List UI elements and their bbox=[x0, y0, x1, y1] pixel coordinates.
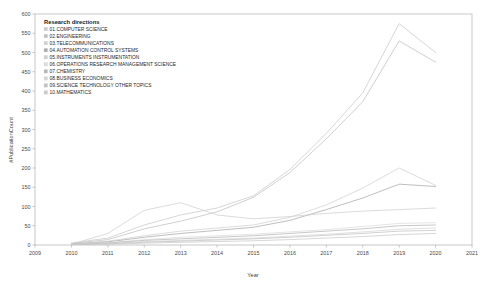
y-tick-label: 350 bbox=[22, 107, 31, 113]
x-tick-label: 2018 bbox=[357, 250, 369, 256]
legend-swatch-icon bbox=[44, 48, 48, 52]
legend-swatch-icon bbox=[44, 34, 48, 38]
x-tick-label: 2019 bbox=[393, 250, 405, 256]
legend-swatch-icon bbox=[44, 70, 48, 74]
legend-item-label: 08.BUSINESS ECONOMICS bbox=[50, 76, 114, 81]
x-tick-label: 2020 bbox=[430, 250, 442, 256]
legend-item-8[interactable]: 08.BUSINESS ECONOMICS bbox=[44, 76, 113, 81]
x-tick-label: 2012 bbox=[138, 250, 150, 256]
y-tick-label: 600 bbox=[22, 11, 31, 17]
legend-swatch-icon bbox=[44, 84, 48, 88]
legend-title: Research directions bbox=[44, 19, 99, 25]
y-tick-label: 450 bbox=[22, 69, 31, 75]
y-tick-label: 50 bbox=[25, 223, 31, 229]
y-tick-label: 400 bbox=[22, 88, 31, 94]
y-tick-label: 500 bbox=[22, 50, 31, 56]
publication-count-line-chart: 050100150200250300350400450500550600 200… bbox=[0, 0, 493, 285]
y-tick-label: 550 bbox=[22, 30, 31, 36]
x-tick-label: 2021 bbox=[466, 250, 478, 256]
legend-swatch-icon bbox=[44, 91, 48, 95]
legend-item-label: 04.AUTOMATION CONTROL SYSTEMS bbox=[50, 48, 140, 53]
legend-swatch-icon bbox=[44, 41, 48, 45]
legend-item-label: 06.OPERATIONS RESEARCH MANAGEMENT SCIENC… bbox=[50, 62, 177, 67]
chart-canvas: 050100150200250300350400450500550600 200… bbox=[0, 0, 493, 285]
legend-item-5[interactable]: 05.INSTRUMENTS INSTRUMENTATION bbox=[44, 55, 140, 60]
x-tick-label: 2017 bbox=[320, 250, 332, 256]
legend-item-9[interactable]: 09.SCIENCE TECHNOLOGY OTHER TOPICS bbox=[44, 83, 152, 88]
legend-item-label: 05.INSTRUMENTS INSTRUMENTATION bbox=[50, 55, 140, 60]
legend-swatch-icon bbox=[44, 55, 48, 59]
legend-item-10[interactable]: 10.MATHEMATICS bbox=[44, 90, 92, 95]
legend-item-label: 02.ENGINEERING bbox=[50, 34, 91, 39]
y-tick-label: 250 bbox=[22, 146, 31, 152]
legend-item-label: 09.SCIENCE TECHNOLOGY OTHER TOPICS bbox=[50, 83, 153, 88]
legend-item-label: 10.MATHEMATICS bbox=[50, 90, 92, 95]
x-tick-label: 2013 bbox=[175, 250, 187, 256]
y-axis-title: #PublicationCount bbox=[8, 117, 14, 163]
y-tick-label: 0 bbox=[28, 242, 31, 248]
x-tick-label: 2014 bbox=[211, 250, 223, 256]
x-tick-label: 2010 bbox=[65, 250, 77, 256]
x-tick-label: 2015 bbox=[248, 250, 260, 256]
legend-item-6[interactable]: 06.OPERATIONS RESEARCH MANAGEMENT SCIENC… bbox=[44, 62, 177, 67]
y-tick-label: 100 bbox=[22, 204, 31, 210]
x-tick-label: 2011 bbox=[102, 250, 114, 256]
x-axis-title: Year bbox=[247, 272, 258, 278]
y-tick-label: 200 bbox=[22, 165, 31, 171]
legend-item-1[interactable]: 01.COMPUTER SCIENCE bbox=[44, 27, 108, 32]
x-tick-label: 2016 bbox=[284, 250, 296, 256]
legend-item-7[interactable]: 07.CHEMISTRY bbox=[44, 69, 86, 74]
legend-swatch-icon bbox=[44, 62, 48, 66]
legend-item-4[interactable]: 04.AUTOMATION CONTROL SYSTEMS bbox=[44, 48, 139, 53]
legend-item-label: 01.COMPUTER SCIENCE bbox=[50, 27, 109, 32]
legend-item-2[interactable]: 02.ENGINEERING bbox=[44, 34, 91, 39]
legend-item-3[interactable]: 03.TELECOMMUNICATIONS bbox=[44, 41, 115, 46]
legend-item-label: 07.CHEMISTRY bbox=[50, 69, 86, 74]
y-tick-label: 300 bbox=[22, 127, 31, 133]
x-tick-label: 2009 bbox=[29, 250, 41, 256]
legend-item-label: 03.TELECOMMUNICATIONS bbox=[50, 41, 115, 46]
legend-swatch-icon bbox=[44, 27, 48, 31]
legend-swatch-icon bbox=[44, 77, 48, 81]
y-tick-label: 150 bbox=[22, 184, 31, 190]
